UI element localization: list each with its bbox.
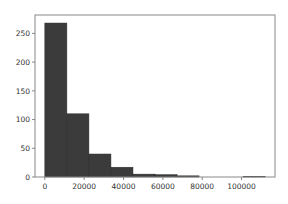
histogram-bar [111,167,133,177]
histogram-bars [45,23,265,177]
y-tick-label: 0 [25,173,30,182]
x-tick-label: 80000 [190,182,214,191]
x-tick-label: 100000 [227,182,256,191]
y-tick-label: 150 [16,87,31,96]
y-tick-label: 100 [16,115,31,124]
y-tick-label: 50 [20,144,30,153]
x-tick-label: 0 [42,182,47,191]
histogram-chart: 050100150200250 020000400006000080000100… [0,0,288,204]
x-tick-label: 60000 [151,182,175,191]
histogram-bar [67,114,89,177]
histogram-bar [89,154,111,177]
y-tick-label: 250 [16,29,31,38]
x-axis: 020000400006000080000100000 [42,177,256,191]
x-tick-label: 20000 [72,182,96,191]
x-tick-label: 40000 [112,182,136,191]
y-axis: 050100150200250 [16,29,35,182]
y-tick-label: 200 [16,58,31,67]
histogram-bar [45,23,67,177]
